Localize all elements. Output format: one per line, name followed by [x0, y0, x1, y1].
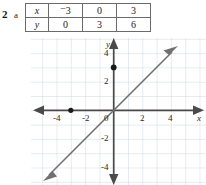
table-header-y: y — [26, 18, 49, 32]
x-tick-label-4: 4 — [168, 114, 173, 123]
table-row: y 0 3 6 — [26, 18, 151, 32]
grid-background — [31, 38, 206, 185]
point-neg3-0 — [68, 108, 73, 113]
graph-svg — [31, 38, 206, 185]
x-tick-label-0: 0 — [104, 114, 109, 123]
y-tick-label-2: 2 — [104, 77, 109, 86]
exercise-number: 2 — [2, 8, 8, 20]
table-header-x: x — [26, 4, 49, 18]
table-cell-x-1: −3 — [49, 4, 83, 18]
coordinate-graph: -4 -2 0 2 4 4 2 -2 -4 x y — [31, 38, 206, 185]
table-row: x −3 0 3 — [26, 4, 151, 18]
table-cell-y-1: 0 — [49, 18, 83, 32]
table-cell-y-3: 6 — [117, 18, 151, 32]
y-tick-label-4: 4 — [104, 49, 109, 58]
value-table: x −3 0 3 y 0 3 6 — [25, 3, 151, 32]
x-tick-label--4: -4 — [53, 114, 61, 123]
table-cell-y-2: 3 — [83, 18, 117, 32]
x-axis-label: x — [197, 114, 201, 123]
x-tick-label-2: 2 — [140, 114, 145, 123]
y-tick-label--2: -2 — [101, 134, 109, 143]
table-cell-x-3: 3 — [117, 4, 151, 18]
y-tick-label--4: -4 — [101, 163, 109, 172]
exercise-part-label: a — [14, 10, 18, 21]
y-axis-label: y — [106, 40, 110, 49]
point-0-3 — [111, 65, 117, 71]
x-tick-label--2: -2 — [82, 114, 90, 123]
table-cell-x-2: 0 — [83, 4, 117, 18]
